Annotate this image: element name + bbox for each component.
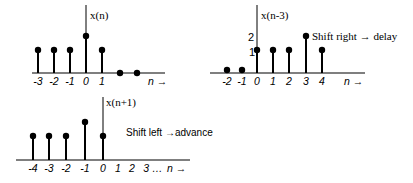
y-tick-2: 2 (248, 31, 254, 43)
plot-title: x(n+1) (106, 96, 136, 109)
annotation-delay: Shift right → delay (312, 30, 398, 42)
x-axis-label: n → (148, 75, 167, 87)
svg-text:-2: -2 (61, 162, 70, 174)
svg-text:0: 0 (83, 75, 89, 87)
signal-shift-diagram: x(n) -3 -2 -1 0 1 n → (0, 0, 413, 183)
svg-text:-2: -2 (49, 75, 58, 87)
svg-text:-2: -2 (222, 75, 231, 87)
x-axis-label: n → (167, 162, 186, 174)
plot-x-n-minus-3: x(n-3) 2 1 -2 -1 0 1 2 3 4 n → (210, 5, 398, 87)
stem-markers (35, 33, 140, 76)
svg-text:0: 0 (100, 162, 106, 174)
svg-text:-1: -1 (80, 162, 89, 174)
svg-text:-1: -1 (237, 75, 246, 87)
y-tick-1: 1 (249, 46, 255, 58)
svg-text:-4: -4 (28, 162, 37, 174)
x-tick-labels: -3 -2 -1 0 1 (33, 75, 105, 87)
svg-text:1: 1 (270, 75, 276, 87)
plot-title: x(n-3) (261, 9, 289, 22)
svg-text:-3: -3 (44, 162, 53, 174)
x-axis-label: n → (344, 75, 363, 87)
x-tick-labels: -2 -1 0 1 2 3 4 (222, 75, 325, 87)
svg-text:-1: -1 (65, 75, 74, 87)
stem-markers (30, 119, 106, 139)
svg-text:2: 2 (285, 75, 292, 87)
svg-text:4: 4 (319, 75, 325, 87)
stems (33, 122, 103, 160)
svg-text:3 …: 3 … (143, 162, 162, 174)
stems (38, 36, 102, 73)
svg-text:-3: -3 (33, 75, 42, 87)
plot-x-n-plus-1: x(n+1) -4 -3 -2 -1 0 1 2 3 … n → Shift l… (16, 96, 213, 174)
svg-text:1: 1 (99, 75, 105, 87)
svg-text:1: 1 (115, 162, 121, 174)
svg-text:0: 0 (254, 75, 260, 87)
svg-text:3: 3 (303, 75, 309, 87)
x-tick-labels: -4 -3 -2 -1 0 1 2 3 … (28, 162, 162, 174)
svg-text:2: 2 (128, 162, 135, 174)
stem-markers (224, 33, 325, 73)
annotation-advance: Shift left →advance (126, 127, 213, 138)
plot-title: x(n) (90, 9, 109, 22)
plot-x-n: x(n) -3 -2 -1 0 1 n → (32, 5, 167, 87)
